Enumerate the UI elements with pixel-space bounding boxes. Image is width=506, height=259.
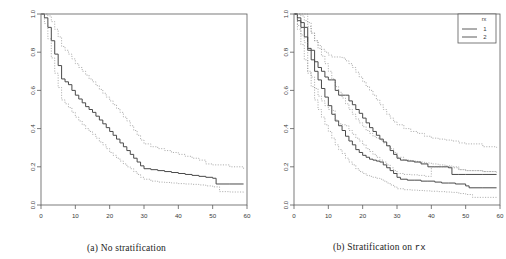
confidence-band-curve: [41, 14, 244, 170]
figure-container: 01020304050600.00.20.40.60.81.0 (a) No s…: [0, 0, 506, 259]
plot-frame: [41, 14, 247, 205]
x-tick-label: 50: [462, 212, 469, 219]
y-tick-label: 0.8: [29, 47, 36, 56]
y-tick-label: 0.4: [29, 124, 36, 133]
plot-b: 01020304050600.00.20.40.60.81.0rx12: [253, 0, 506, 230]
x-tick-label: 40: [428, 212, 435, 219]
x-tick-label: 20: [106, 212, 113, 219]
caption-a-text: (a) No stratification: [87, 243, 166, 253]
y-tick-label: 0.6: [282, 86, 289, 95]
x-tick-label: 60: [497, 212, 504, 219]
x-tick-label: 10: [325, 212, 332, 219]
survival-curve: [41, 14, 244, 184]
caption-b-text: (b) Stratification on: [333, 242, 415, 252]
panel-stratification-rx: 01020304050600.00.20.40.60.81.0rx12 (b) …: [253, 0, 506, 259]
y-tick-label: 0.0: [282, 200, 289, 209]
x-tick-label: 20: [359, 212, 366, 219]
x-tick-label: 0: [292, 212, 296, 219]
x-tick-label: 50: [209, 212, 216, 219]
legend-box: [458, 14, 496, 43]
x-tick-label: 10: [72, 212, 79, 219]
y-tick-label: 1.0: [282, 9, 289, 18]
y-tick-label: 1.0: [29, 9, 36, 18]
x-tick-label: 60: [244, 212, 251, 219]
y-tick-label: 0.2: [29, 162, 36, 171]
x-tick-label: 30: [394, 212, 401, 219]
y-tick-label: 0.8: [282, 47, 289, 56]
panel-no-stratification: 01020304050600.00.20.40.60.81.0 (a) No s…: [0, 0, 253, 259]
caption-a: (a) No stratification: [0, 243, 253, 253]
y-tick-label: 0.2: [282, 162, 289, 171]
plot-a: 01020304050600.00.20.40.60.81.0: [0, 0, 253, 230]
y-tick-label: 0.6: [29, 86, 36, 95]
legend-title: rx: [482, 16, 487, 22]
y-tick-label: 0.4: [282, 124, 289, 133]
caption-b: (b) Stratification on rx: [253, 242, 506, 253]
x-tick-label: 0: [39, 212, 43, 219]
x-tick-label: 30: [141, 212, 148, 219]
y-tick-label: 0.0: [29, 200, 36, 209]
caption-b-mono: rx: [415, 243, 426, 253]
x-tick-label: 40: [175, 212, 182, 219]
